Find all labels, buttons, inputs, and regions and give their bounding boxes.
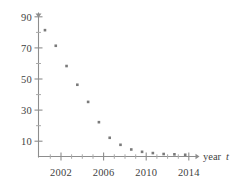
x-tick-label-2006: 2006 [93, 167, 115, 178]
y-tick-label-90: 90 [21, 12, 32, 23]
x-tick-label-2002: 2002 [50, 167, 72, 178]
data-point [184, 153, 187, 156]
y-tick-label-50: 50 [21, 74, 32, 85]
data-point [65, 65, 68, 68]
x-tick-label-2014: 2014 [178, 167, 200, 178]
y-tick-label-70: 70 [21, 43, 32, 54]
y-tick-label-10: 10 [21, 136, 32, 147]
data-point-series [44, 29, 187, 156]
data-point [130, 148, 133, 151]
y-tick-label-30: 30 [21, 105, 32, 116]
plot-canvas: 90 70 50 30 10 2002 2006 2010 2014 year … [0, 0, 235, 191]
data-point [54, 44, 57, 47]
data-point [162, 153, 165, 156]
data-point [98, 121, 101, 124]
data-point [173, 153, 176, 156]
scatter-plot-figure: 90 70 50 30 10 2002 2006 2010 2014 year … [0, 0, 235, 191]
data-point [76, 83, 79, 86]
x-axis-title-word: year [203, 151, 222, 162]
data-point [119, 144, 122, 147]
data-point [44, 29, 47, 32]
data-point [87, 101, 90, 104]
x-tick-label-2010: 2010 [135, 167, 157, 178]
data-point [152, 152, 155, 155]
data-point [108, 136, 111, 139]
data-point [141, 151, 144, 154]
x-axis-title-variable: t [226, 151, 230, 162]
x-axis-cap [196, 154, 200, 159]
